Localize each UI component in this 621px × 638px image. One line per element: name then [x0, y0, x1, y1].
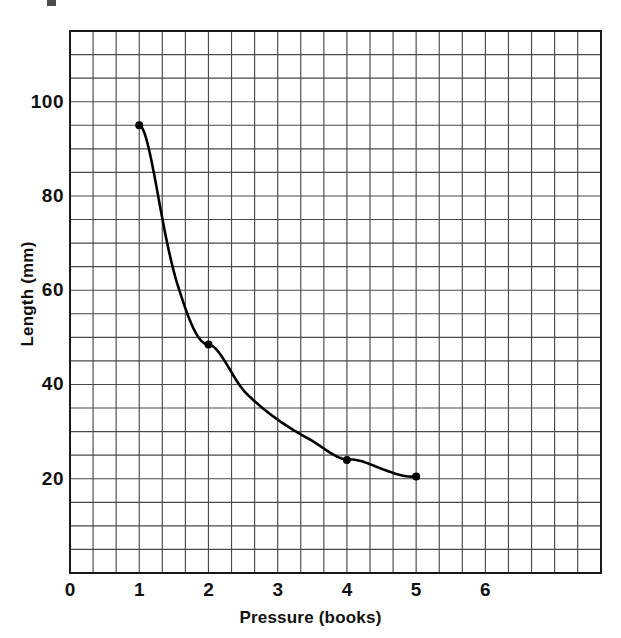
plot-area [0, 0, 621, 638]
y-tick-label-100: 100 [18, 92, 64, 111]
data-point [135, 121, 143, 129]
x-tick-label-6: 6 [465, 580, 505, 599]
x-tick-label-2: 2 [188, 580, 228, 599]
x-tick-label-3: 3 [258, 580, 298, 599]
x-tick-label-1: 1 [119, 580, 159, 599]
x-tick-label-5: 5 [396, 580, 436, 599]
x-axis-title: Pressure (books) [0, 608, 621, 628]
y-axis-title: Length (mm) [18, 204, 38, 384]
x-axis-tick-labels: 0123456 [0, 580, 621, 608]
plot-background [70, 31, 601, 573]
y-tick-label-20: 20 [18, 469, 64, 488]
data-point [412, 472, 420, 480]
x-tick-label-4: 4 [327, 580, 367, 599]
data-point [343, 456, 351, 464]
data-point [204, 340, 212, 348]
y-tick-label-80: 80 [18, 186, 64, 205]
x-tick-label-0: 0 [50, 580, 90, 599]
chart-figure: 20406080100 0123456 Pressure (books) Len… [0, 0, 621, 638]
